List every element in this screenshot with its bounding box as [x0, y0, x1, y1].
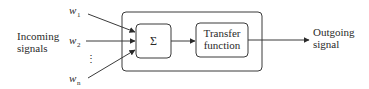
- svg-text:1: 1: [77, 11, 81, 19]
- outgoing-label-line2: signal: [313, 38, 339, 50]
- sigma-symbol: Σ: [150, 34, 157, 48]
- incoming-label-line1: Incoming: [17, 30, 60, 42]
- weight-w2: w 2: [69, 34, 81, 49]
- svg-text:w: w: [69, 4, 77, 16]
- svg-text:w: w: [69, 34, 77, 46]
- outgoing-label-line1: Outgoing: [313, 26, 355, 38]
- weights-ellipsis: ⋮: [86, 53, 96, 64]
- weight-w1: w 1: [69, 4, 81, 19]
- input-arrow-1: [88, 14, 135, 32]
- incoming-label-line2: signals: [17, 42, 48, 54]
- svg-text:n: n: [77, 79, 81, 87]
- transfer-label-line1: Transfer: [204, 27, 241, 39]
- svg-text:2: 2: [77, 41, 81, 49]
- neuron-diagram: Incoming signals w 1 w 2 ⋮ w n Σ Transfe…: [0, 0, 369, 89]
- svg-text:w: w: [69, 72, 77, 84]
- transfer-label-line2: function: [204, 39, 241, 51]
- weight-wn: w n: [69, 72, 81, 87]
